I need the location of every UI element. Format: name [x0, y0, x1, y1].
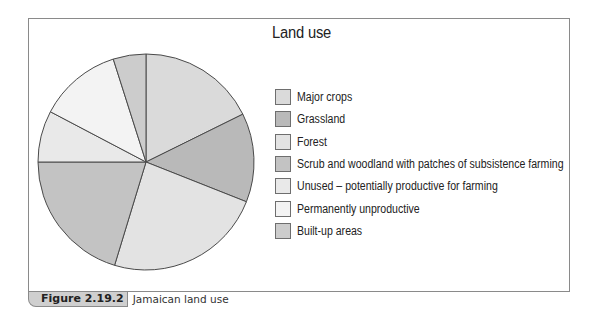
legend-label: Scrub and woodland with patches of subsi…	[297, 157, 564, 171]
legend-swatch	[275, 89, 291, 105]
legend-swatch	[275, 223, 291, 239]
legend-swatch	[275, 178, 291, 194]
legend-item: Built-up areas	[275, 223, 371, 239]
legend-label: Forest	[297, 135, 327, 149]
legend-label: Grassland	[297, 112, 345, 126]
legend-item: Scrub and woodland with patches of subsi…	[275, 156, 598, 172]
legend-item: Grassland	[275, 111, 352, 127]
legend-item: Major crops	[275, 89, 360, 105]
figure-label: Figure 2.19.2	[28, 292, 128, 307]
legend-swatch	[275, 111, 291, 127]
chart-title: Land use	[272, 24, 331, 42]
figure-caption: Figure 2.19.2 Jamaican land use	[28, 292, 229, 306]
figure-caption-text: Jamaican land use	[133, 293, 229, 305]
legend-item: Forest	[275, 134, 331, 150]
legend-label: Unused – potentially productive for farm…	[297, 179, 498, 193]
legend-swatch	[275, 201, 291, 217]
legend-label: Permanently unproductive	[297, 202, 420, 216]
legend-label: Built-up areas	[297, 224, 362, 238]
legend-label: Major crops	[297, 90, 352, 104]
legend-swatch	[275, 134, 291, 150]
legend-item: Unused – potentially productive for farm…	[275, 178, 525, 194]
legend-item: Permanently unproductive	[275, 201, 436, 217]
legend-swatch	[275, 156, 291, 172]
